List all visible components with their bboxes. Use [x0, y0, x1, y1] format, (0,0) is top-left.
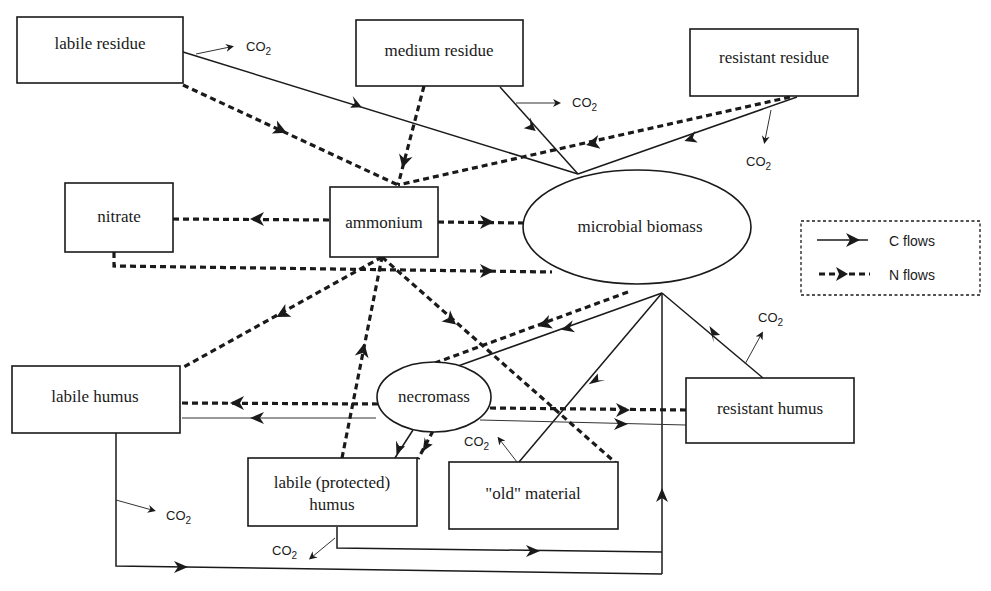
node-microbial-biomass[interactable]: microbial biomass	[523, 170, 751, 284]
legend-label-n-flows: N flows	[889, 267, 935, 283]
node-ammonium[interactable]: ammonium	[330, 187, 438, 257]
node-label: medium residue	[384, 41, 493, 60]
co2-arrow-labile-humus	[116, 500, 152, 510]
node-label: nitrate	[97, 207, 140, 226]
node-label: resistant residue	[719, 48, 829, 67]
arrowhead-icon	[521, 117, 539, 135]
legend-label-c-flows: C flows	[889, 233, 935, 249]
n-flow-biomass-to-necromass	[435, 292, 628, 363]
node-necromass[interactable]: necromass	[377, 362, 491, 432]
co2-arrow-old-material	[500, 440, 517, 462]
node-label: labile residue	[54, 34, 145, 53]
node-label: ammonium	[345, 213, 422, 232]
co2-label-old-material: CO2	[464, 434, 490, 452]
co2-arrow-resistant-humus	[745, 335, 761, 364]
n-flow-ammonium-to-old-material	[382, 257, 617, 464]
co2-label-protected-humus: CO2	[272, 543, 298, 561]
co2-label-resistant-residue: CO2	[746, 154, 772, 172]
arrowhead-icon	[585, 135, 602, 152]
node-labile-protected-humus[interactable]: labile (protected) humus	[248, 458, 417, 526]
node-label-line1: labile (protected)	[274, 473, 391, 492]
co2-label-medium-residue: CO2	[572, 95, 598, 113]
arrowhead-icon	[614, 418, 628, 430]
node-resistant-residue[interactable]: resistant residue	[690, 29, 858, 96]
n-flow-protected-humus-to-ammonium	[342, 257, 382, 458]
soil-flow-diagram: labile residue medium residue resistant …	[0, 0, 991, 591]
arrowhead-icon	[271, 120, 290, 139]
n-flow-medium-residue-to-ammonium	[398, 86, 424, 185]
co2-arrow-resistant-residue	[765, 110, 771, 140]
co2-arrow-labile-residue	[196, 47, 230, 54]
node-label-line2: humus	[309, 495, 354, 514]
co2-arrow-protected-humus	[312, 538, 335, 557]
n-flow-ammonium-to-biomass	[438, 222, 524, 223]
node-nitrate[interactable]: nitrate	[65, 183, 173, 252]
arrowhead-icon	[230, 396, 244, 410]
node-resistant-humus[interactable]: resistant humus	[686, 378, 854, 443]
node-label: resistant humus	[717, 399, 823, 418]
n-flow-labile-residue-to-ammonium	[183, 85, 398, 185]
co2-label-labile-humus: CO2	[166, 508, 192, 526]
c-flow-necromass-to-resistant-humus	[480, 420, 686, 425]
node-label: labile humus	[51, 387, 138, 406]
co2-label-resistant-humus: CO2	[758, 310, 784, 328]
node-label: necromass	[398, 387, 470, 406]
node-labile-residue[interactable]: labile residue	[17, 17, 183, 83]
c-flow-protected-humus-to-biomass	[337, 527, 662, 552]
arrowhead-icon	[250, 212, 264, 226]
c-flow-necromass-to-protected-humus	[393, 430, 413, 461]
n-flow-necromass-to-resistant-humus	[490, 408, 686, 410]
arrowhead-icon	[682, 131, 699, 147]
arrowhead-icon	[616, 403, 630, 417]
node-label: "old" material	[485, 484, 581, 503]
node-labile-humus[interactable]: labile humus	[12, 366, 180, 433]
co2-label-labile-residue: CO2	[246, 39, 272, 57]
node-label: microbial biomass	[577, 217, 702, 236]
node-medium-residue[interactable]: medium residue	[356, 20, 523, 86]
nodes: labile residue medium residue resistant …	[12, 17, 858, 529]
legend: C flows N flows	[801, 221, 980, 295]
node-old-material[interactable]: "old" material	[449, 462, 618, 529]
n-flow-necromass-to-labile-humus	[182, 403, 378, 404]
